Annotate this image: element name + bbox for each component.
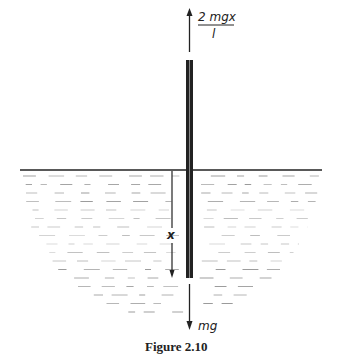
upward-force-arrow <box>187 8 193 52</box>
weight-force-arrow <box>187 284 193 330</box>
upward-force-numerator: 2 mgx <box>198 10 237 24</box>
rod <box>186 60 193 278</box>
weight-label: mg <box>198 319 218 333</box>
depth-dimension-arrow <box>170 171 175 278</box>
depth-label: x <box>166 228 176 242</box>
upward-force-denominator: l <box>212 27 216 41</box>
liquid-body <box>23 176 319 312</box>
diagram-canvas: 2 mgx l x mg Figure 2.10 <box>0 0 349 359</box>
figure-caption: Figure 2.10 <box>145 339 208 354</box>
